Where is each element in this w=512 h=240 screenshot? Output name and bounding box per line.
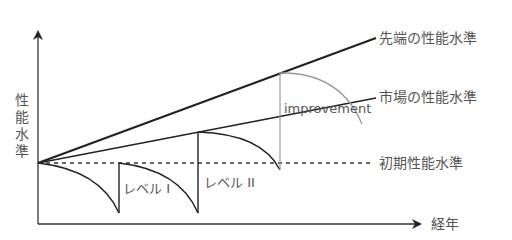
level2-label: レベル II xyxy=(204,176,255,189)
y-axis-char: 水 xyxy=(14,126,30,143)
decay-curve-3 xyxy=(198,132,280,170)
improvement-label: improvement xyxy=(284,102,371,115)
y-axis-char: 性 xyxy=(14,92,30,109)
initial-label: 初期性能水準 xyxy=(379,156,463,170)
improvement-arc xyxy=(280,73,362,124)
cutting-edge-label: 先端の性能水準 xyxy=(379,31,477,45)
x-axis-label: 経年 xyxy=(431,217,459,231)
decay-curve-1 xyxy=(38,163,119,213)
y-axis-label: 性 能 水 準 xyxy=(14,92,30,160)
market-label: 市場の性能水準 xyxy=(379,90,477,104)
level1-label: レベル I xyxy=(123,182,170,195)
y-axis-char: 準 xyxy=(14,143,30,160)
y-axis-char: 能 xyxy=(14,109,30,126)
